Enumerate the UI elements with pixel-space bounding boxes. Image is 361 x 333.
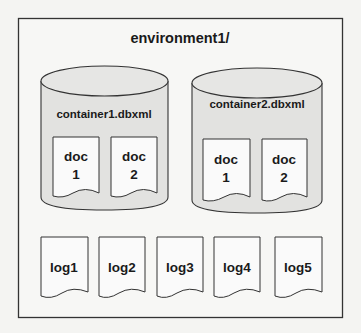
log-file-2: log2 xyxy=(99,237,145,297)
log-label: log2 xyxy=(108,260,136,275)
log-file-3: log3 xyxy=(157,237,203,297)
document-number: 1 xyxy=(222,170,230,185)
log-label: log1 xyxy=(50,260,78,275)
log-file-1: log1 xyxy=(41,237,88,297)
environment-diagram: environment1/ container1.dbxml doc 1 doc… xyxy=(0,0,361,333)
log-label: log4 xyxy=(223,260,251,275)
container-cylinder-1: container1.dbxml doc 1 doc 2 xyxy=(41,66,168,210)
document-label: doc xyxy=(214,152,238,167)
log-file-5: log5 xyxy=(275,237,322,297)
environment-title: environment1/ xyxy=(130,30,229,46)
log-file-4: log4 xyxy=(214,237,260,297)
container-name: container2.dbxml xyxy=(209,98,304,110)
document-label: doc xyxy=(122,149,146,164)
document-number: 2 xyxy=(130,167,138,182)
document-label: doc xyxy=(64,149,88,164)
container-cylinder-2: container2.dbxml doc 1 doc 2 xyxy=(192,68,322,213)
document-number: 1 xyxy=(72,167,80,182)
document-number: 2 xyxy=(280,170,288,185)
log-label: log5 xyxy=(284,260,312,275)
container-name: container1.dbxml xyxy=(56,108,151,120)
log-label: log3 xyxy=(166,260,194,275)
document-label: doc xyxy=(272,152,296,167)
